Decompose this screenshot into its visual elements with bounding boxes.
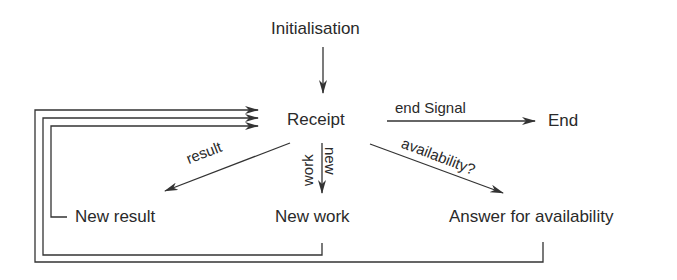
node-receipt: Receipt [287,111,345,128]
diagram-canvas [0,0,677,280]
node-answer-availability: Answer for availability [449,208,613,225]
node-new-work: New work [275,208,350,225]
node-new-result: New result [75,208,155,225]
edge-label-work: work [300,154,315,186]
node-end: End [548,112,578,129]
loop-new-work-to-receipt [43,118,322,255]
edge-label-end-signal: end Signal [395,100,466,115]
node-initialisation: Initialisation [271,20,360,37]
edge-label-new: new [323,147,338,175]
loop-answer-to-receipt [35,110,543,262]
loop-new-result-to-receipt [51,126,258,217]
